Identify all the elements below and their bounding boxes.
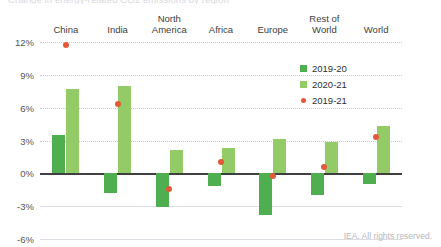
legend-dot-icon [301, 98, 306, 103]
legend-square-icon [300, 81, 307, 88]
gridline [40, 75, 402, 76]
legend-item[interactable]: 2019-20 [300, 60, 347, 76]
bar [52, 135, 65, 173]
legend: 2019-202020-212019-21 [300, 60, 347, 108]
plot-area: 12%9%6%3%0%-3%-6%ChinaIndiaNorth America… [40, 42, 402, 239]
bar [259, 173, 272, 215]
bar [104, 173, 117, 193]
bar [377, 126, 390, 173]
x-axis-category-label: World [336, 25, 416, 36]
data-point-marker [270, 173, 276, 179]
legend-square-icon [300, 65, 307, 72]
legend-label: 2019-21 [312, 95, 347, 106]
data-point-marker [115, 101, 121, 107]
bar [325, 142, 338, 174]
gridline [40, 42, 402, 43]
y-axis-tick-label: 9% [20, 69, 34, 80]
y-axis-tick-label: 3% [20, 135, 34, 146]
legend-item[interactable]: 2020-21 [300, 76, 347, 92]
page-title: Change in energy-related CO2 emissions b… [8, 0, 438, 4]
y-axis-tick-label: -3% [17, 201, 34, 212]
y-axis-tick-label: 6% [20, 102, 34, 113]
gridline [40, 141, 402, 142]
copyright-notice: IEA. All rights reserved. [344, 231, 432, 241]
gridline [40, 108, 402, 109]
y-axis-tick-label: -6% [17, 234, 34, 245]
bar [66, 89, 79, 173]
bar [170, 150, 183, 173]
bar [311, 173, 324, 195]
y-axis-tick-label: 12% [15, 37, 34, 48]
zero-baseline [40, 173, 402, 175]
legend-item[interactable]: 2019-21 [300, 92, 347, 108]
legend-label: 2020-21 [312, 79, 347, 90]
legend-label: 2019-20 [312, 63, 347, 74]
bar [273, 139, 286, 173]
chart-page: Change in energy-related CO2 emissions b… [0, 0, 441, 247]
data-point-marker [166, 186, 172, 192]
gridline [40, 206, 402, 207]
bar [363, 173, 376, 184]
y-axis-tick-label: 0% [20, 168, 34, 179]
bar [208, 173, 221, 186]
bar [118, 86, 131, 174]
data-point-marker [63, 42, 69, 48]
